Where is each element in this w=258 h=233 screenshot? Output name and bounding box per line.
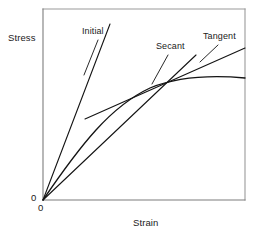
tangent-leader-line bbox=[200, 45, 218, 62]
stress-strain-curve bbox=[43, 77, 245, 200]
annotation-label-tangent: Tangent bbox=[203, 32, 236, 41]
stress-strain-figure: Stress Strain 0 0 Initial Secant Tangent bbox=[0, 0, 258, 233]
secant-leader-line bbox=[152, 55, 168, 84]
secant-modulus-line bbox=[43, 55, 196, 200]
annotation-label-initial: Initial bbox=[82, 27, 104, 36]
initial-leader-line bbox=[84, 40, 98, 75]
y-axis-title: Stress bbox=[8, 33, 36, 43]
origin-label-y-axis: 0 bbox=[31, 193, 36, 203]
x-axis-title: Strain bbox=[133, 218, 158, 228]
origin-label-x-axis: 0 bbox=[38, 203, 43, 213]
annotation-label-secant: Secant bbox=[156, 42, 185, 51]
